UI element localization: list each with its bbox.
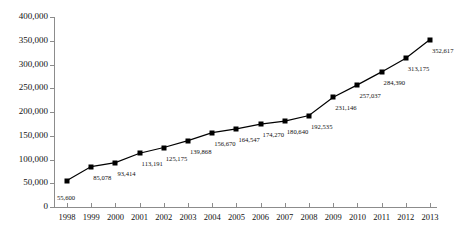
data-point-label: 93,414 bbox=[117, 170, 135, 177]
chart-container: 400,000350,000300,000250,000200,000150,0… bbox=[0, 0, 461, 243]
data-point-label: 164,547 bbox=[238, 136, 259, 143]
data-marker bbox=[428, 37, 433, 42]
data-point-label: 180,640 bbox=[287, 128, 308, 135]
series-line bbox=[0, 0, 461, 243]
data-point-label: 257,037 bbox=[359, 92, 380, 99]
data-marker bbox=[307, 113, 312, 118]
data-point-label: 113,191 bbox=[142, 160, 163, 167]
data-marker bbox=[258, 122, 263, 127]
data-marker bbox=[113, 160, 118, 165]
data-marker bbox=[65, 178, 70, 183]
data-marker bbox=[234, 126, 239, 131]
data-point-label: 313,175 bbox=[408, 65, 429, 72]
data-marker bbox=[186, 138, 191, 143]
data-point-label: 55,600 bbox=[57, 194, 75, 201]
data-point-label: 231,146 bbox=[335, 104, 356, 111]
data-point-label: 156,670 bbox=[214, 140, 235, 147]
data-point-label: 284,390 bbox=[384, 79, 405, 86]
data-marker bbox=[379, 69, 384, 74]
data-point-label: 125,175 bbox=[166, 155, 187, 162]
data-point-label: 139,868 bbox=[190, 148, 211, 155]
data-marker bbox=[210, 130, 215, 135]
data-marker bbox=[89, 164, 94, 169]
data-marker bbox=[403, 56, 408, 61]
data-point-label: 174,270 bbox=[263, 131, 284, 138]
data-point-label: 85,078 bbox=[93, 174, 111, 181]
data-point-label: 352,617 bbox=[432, 47, 453, 54]
data-marker bbox=[331, 95, 336, 100]
data-marker bbox=[161, 145, 166, 150]
data-marker bbox=[282, 119, 287, 124]
data-marker bbox=[137, 151, 142, 156]
data-point-label: 192,535 bbox=[311, 123, 332, 130]
data-marker bbox=[355, 82, 360, 87]
